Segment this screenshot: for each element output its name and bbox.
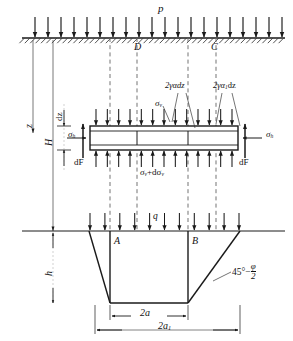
ground-surface [19,38,285,43]
label-friction-right: 2γα1dz [213,81,236,90]
angle-fraction: φ2 [251,262,256,281]
label-sigma-h-right: σh [266,130,273,140]
label-surcharge-p: p [158,3,164,14]
label-sigma-v-bottom: σv+dσv [140,168,164,178]
label-depth-H: H [44,139,54,146]
surcharge-arrows [35,17,282,37]
label-depth-z: z [24,124,34,128]
label-load-q: q [153,212,158,222]
label-point-A: A [114,236,120,246]
label-wedge-angle: 45°−φ2 [232,262,256,281]
label-point-B: B [192,236,198,246]
label-width-2a1: 2a1 [158,321,171,332]
label-dF-left: dF [74,158,84,167]
label-sigma-h-left: σh [68,130,75,140]
label-wedge-height-h: h [44,271,54,276]
soil-element-slab [90,126,238,150]
label-sigma-v-top: σv [155,99,162,109]
failure-wedge [89,231,240,303]
label-point-D: D [134,42,141,52]
q-load-arrows [90,213,239,230]
sigma-v-top-arrows [96,109,232,125]
label-element-thickness-dz: dz [55,113,64,122]
friction-leader-lines [163,93,240,128]
angle-leader-line [213,272,231,281]
figure-canvas: p z H dz σh σh dF dF σv σv+dσv 2γαdz 2γα… [0,0,293,341]
label-point-C: C [211,42,218,52]
sigma-v-bottom-arrows [96,151,232,167]
label-friction-left: 2γαdz [165,81,185,90]
label-dF-right: dF [239,158,249,167]
label-width-2a: 2a [140,308,150,318]
